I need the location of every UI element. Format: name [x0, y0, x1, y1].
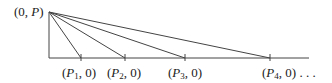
p1-tail: , 0): [79, 65, 96, 80]
rays: [49, 12, 270, 58]
ray-p1: [49, 12, 81, 58]
p3-tail: , 0): [185, 65, 202, 80]
p2-tail: , 0): [124, 65, 141, 80]
point-label-p4: (P4, 0) . . .: [262, 66, 316, 81]
ray-p3: [49, 12, 185, 58]
point-label-p2: (P2, 0): [107, 66, 141, 81]
apex-label-close: ): [39, 4, 43, 19]
apex-label: (0, P): [14, 5, 44, 18]
point-label-p1: (P1, 0): [62, 66, 96, 81]
apex-label-open: (0,: [14, 4, 31, 19]
ray-p4: [49, 12, 270, 58]
p4-tail: , 0) . . .: [279, 65, 316, 80]
point-label-p3: (P3, 0): [168, 66, 202, 81]
ray-p2: [49, 12, 125, 58]
